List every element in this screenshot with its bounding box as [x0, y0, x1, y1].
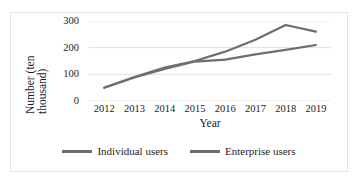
- x-tick-label: 2012: [89, 102, 119, 116]
- series-line: [104, 25, 316, 88]
- x-tick-label: 2015: [180, 102, 210, 116]
- legend-label: Individual users: [97, 145, 168, 157]
- chart-legend: Individual usersEnterprise users: [11, 145, 347, 157]
- x-axis-title: Year: [89, 117, 331, 129]
- y-axis-title: Number (ten thousand): [25, 19, 47, 114]
- y-axis-tick-labels: 3002001000: [49, 21, 79, 103]
- series-lines: [104, 25, 316, 88]
- legend-label: Enterprise users: [225, 145, 296, 157]
- x-tick-label: 2014: [150, 102, 180, 116]
- y-tick-label: 100: [49, 69, 79, 79]
- x-tick-label: 2019: [301, 102, 331, 116]
- legend-entry[interactable]: Enterprise users: [190, 145, 296, 157]
- legend-line-swatch: [62, 150, 92, 153]
- line-chart-svg: [89, 21, 331, 101]
- y-axis-title-line-1: Number (ten: [24, 56, 36, 114]
- y-tick-label: 300: [49, 16, 79, 26]
- y-tick-label: 0: [49, 96, 79, 106]
- legend-line-swatch: [190, 150, 220, 153]
- x-tick-label: 2013: [119, 102, 149, 116]
- y-tick-label: 200: [49, 43, 79, 53]
- x-axis-tick-labels: 20122013201420152016201720182019: [89, 102, 331, 116]
- x-tick-label: 2017: [240, 102, 270, 116]
- legend-entry[interactable]: Individual users: [62, 145, 168, 157]
- x-tick-label: 2018: [271, 102, 301, 116]
- series-line: [104, 45, 316, 88]
- y-axis-title-line-2: thousand): [36, 69, 48, 114]
- plot-area: [89, 21, 331, 101]
- chart-figure: Number (ten thousand) 3002001000 2012201…: [10, 12, 348, 172]
- x-tick-label: 2016: [210, 102, 240, 116]
